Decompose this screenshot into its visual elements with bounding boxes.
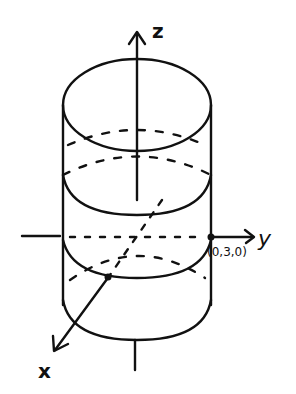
point-label: (0,3,0) [207,245,247,259]
z-axis-label: z [152,19,164,43]
bottom-ring-front [63,300,211,340]
cylinder-diagram: z y x (0,3,0) [0,0,296,394]
y-axis-label: y [257,226,272,251]
point-marker [208,234,215,241]
lower-middle-ring-back [70,256,205,280]
x-axis-intersection-marker [105,274,112,281]
x-axis-label: x [38,359,51,383]
lower-middle-ring-front [63,240,211,278]
